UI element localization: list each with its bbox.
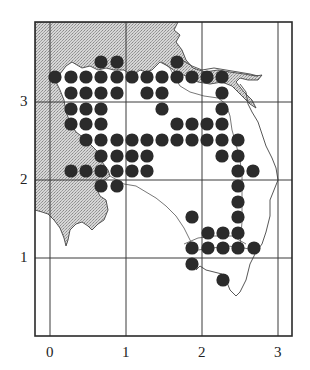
occurrence-dot [185, 210, 198, 223]
occurrence-dot [231, 133, 244, 146]
occurrence-dot [201, 241, 214, 254]
occurrence-dot [216, 273, 229, 286]
occurrence-dot [201, 226, 214, 239]
occurrence-dot [185, 70, 198, 83]
occurrence-dot [79, 133, 92, 146]
occurrence-dot [155, 102, 168, 115]
occurrence-dot [200, 133, 213, 146]
x-tick-1: 1 [122, 345, 130, 360]
occurrence-dot [79, 70, 92, 83]
occurrence-dot [231, 164, 244, 177]
occurrence-dot [140, 133, 153, 146]
occurrence-dot [110, 55, 123, 68]
occurrence-dot [231, 149, 244, 162]
occurrence-dot [155, 86, 168, 99]
occurrence-dot [64, 70, 77, 83]
occurrence-dot [79, 117, 92, 130]
occurrence-dot [110, 179, 123, 192]
x-tick-0: 0 [46, 345, 54, 360]
occurrence-dot [215, 117, 228, 130]
occurrence-dot [155, 133, 168, 146]
y-tick-3: 3 [20, 94, 28, 109]
occurrence-dot [170, 70, 183, 83]
occurrence-dot [125, 70, 138, 83]
occurrence-dot [185, 133, 198, 146]
occurrence-dot [125, 149, 138, 162]
y-tick-2: 2 [20, 172, 28, 187]
occurrence-dot [215, 133, 228, 146]
occurrence-dot [79, 102, 92, 115]
occurrence-dot [140, 164, 153, 177]
occurrence-dot [185, 117, 198, 130]
occurrence-dot [79, 86, 92, 99]
occurrence-dot [48, 70, 61, 83]
occurrence-dot [110, 133, 123, 146]
occurrence-dot [231, 226, 244, 239]
occurrence-dot [155, 70, 168, 83]
occurrence-dot [170, 55, 183, 68]
occurrence-dot [94, 70, 107, 83]
occurrence-dot [110, 86, 123, 99]
y-tick-1: 1 [20, 250, 28, 265]
occurrence-dot [231, 210, 244, 223]
occurrence-dot [231, 195, 244, 208]
occurrence-dot [94, 117, 107, 130]
occurrence-dot [200, 70, 213, 83]
occurrence-dot [185, 257, 198, 270]
occurrence-dot [94, 179, 107, 192]
distribution-map [0, 0, 310, 370]
occurrence-dot [110, 149, 123, 162]
occurrence-dot [140, 70, 153, 83]
occurrence-dot [215, 70, 228, 83]
occurrence-dot [247, 241, 260, 254]
occurrence-dot [200, 117, 213, 130]
x-tick-2: 2 [198, 345, 206, 360]
occurrence-dot [216, 241, 229, 254]
occurrence-dot [215, 86, 228, 99]
occurrence-dot [216, 226, 229, 239]
occurrence-dot [246, 164, 259, 177]
occurrence-dot [64, 86, 77, 99]
occurrence-dot [215, 102, 228, 115]
occurrence-dot [140, 86, 153, 99]
x-tick-3: 3 [274, 345, 282, 360]
occurrence-dot [94, 86, 107, 99]
occurrence-dots [48, 55, 260, 286]
occurrence-dot [215, 149, 228, 162]
occurrence-dot [64, 102, 77, 115]
occurrence-dot [125, 133, 138, 146]
occurrence-dot [140, 149, 153, 162]
occurrence-dot [125, 164, 138, 177]
occurrence-dot [231, 179, 244, 192]
occurrence-dot [170, 117, 183, 130]
occurrence-dot [64, 117, 77, 130]
occurrence-dot [79, 164, 92, 177]
occurrence-dot [185, 241, 198, 254]
occurrence-dot [110, 164, 123, 177]
occurrence-dot [94, 164, 107, 177]
occurrence-dot [170, 133, 183, 146]
occurrence-dot [94, 55, 107, 68]
occurrence-dot [94, 149, 107, 162]
occurrence-dot [94, 133, 107, 146]
occurrence-dot [110, 70, 123, 83]
occurrence-dot [231, 241, 244, 254]
occurrence-dot [94, 102, 107, 115]
occurrence-dot [64, 164, 77, 177]
